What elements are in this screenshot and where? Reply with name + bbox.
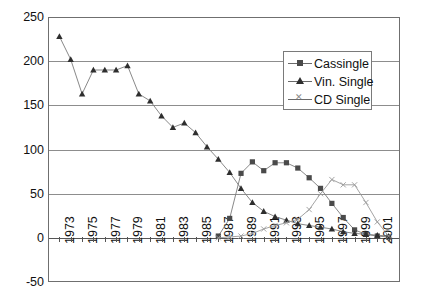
data-series-layer [0, 0, 428, 300]
data-point [250, 159, 255, 164]
legend-item: ✕CD Single [284, 91, 371, 109]
data-point [238, 185, 244, 191]
legend-label: Cassingle [312, 57, 369, 71]
data-point [363, 200, 368, 205]
data-point [261, 208, 267, 214]
data-point [341, 215, 346, 220]
data-point [329, 177, 334, 182]
legend-item: Vin. Single [284, 73, 371, 91]
data-point [272, 160, 277, 165]
chart-legend: CassingleVin. Single✕CD Single [283, 51, 372, 110]
data-point [68, 56, 74, 62]
legend-marker-x-icon: ✕ [288, 93, 312, 107]
series-line [218, 162, 388, 237]
data-point [136, 91, 142, 97]
data-point [284, 160, 289, 165]
legend-marker-triangle-icon [288, 75, 312, 89]
data-point [307, 175, 312, 180]
data-point [318, 191, 323, 196]
data-point [295, 165, 300, 170]
data-point [56, 33, 62, 39]
legend-label: Vin. Single [312, 75, 374, 89]
data-point [181, 120, 187, 126]
data-point [318, 186, 323, 191]
data-point [375, 219, 380, 224]
chart-figure: -50050100150200250 197319751977197919811… [0, 0, 428, 300]
series-cassingle [216, 159, 392, 239]
data-point [227, 216, 232, 221]
data-point [124, 62, 130, 68]
legend-item: Cassingle [284, 55, 371, 73]
data-point [79, 91, 85, 97]
series-line [218, 180, 388, 238]
data-point [307, 207, 312, 212]
data-point [261, 168, 266, 173]
legend-marker-square-icon [288, 57, 312, 71]
data-point [272, 213, 278, 219]
legend-label: CD Single [312, 93, 370, 107]
data-point [261, 226, 266, 231]
data-point [238, 171, 243, 176]
data-point [329, 201, 334, 206]
data-point [147, 98, 153, 104]
series-cd-single [216, 177, 392, 241]
